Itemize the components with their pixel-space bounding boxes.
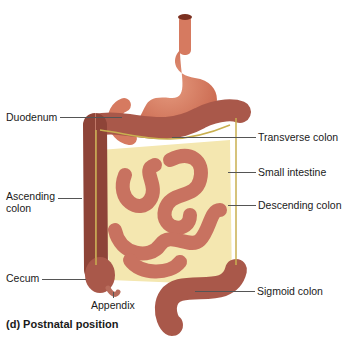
label-ascending-colon-line2: colon (6, 202, 31, 214)
leader-ascending-colon (58, 198, 82, 199)
label-cecum: Cecum (6, 272, 39, 284)
figure-caption: (d) Postnatal position (6, 318, 118, 330)
esophagus (179, 15, 191, 55)
leader-sigmoid-colon (195, 291, 255, 292)
label-appendix: Appendix (91, 299, 135, 311)
label-duodenum: Duodenum (6, 111, 57, 123)
label-ascending-colon-line1: Ascending (6, 190, 55, 202)
label-sigmoid-colon: Sigmoid colon (257, 285, 323, 297)
leader-cecum (42, 279, 86, 280)
leader-transverse-colon (172, 137, 256, 138)
label-descending-colon: Descending colon (258, 199, 341, 211)
leader-duodenum (60, 117, 122, 118)
leader-appendix (113, 292, 114, 298)
label-small-intestine: Small intestine (258, 166, 326, 178)
leader-descending-colon (228, 205, 256, 206)
intestine-diagram: Duodenum Ascending colon Cecum Appendix … (0, 0, 342, 344)
leader-small-intestine (228, 172, 256, 173)
label-transverse-colon: Transverse colon (258, 131, 338, 143)
